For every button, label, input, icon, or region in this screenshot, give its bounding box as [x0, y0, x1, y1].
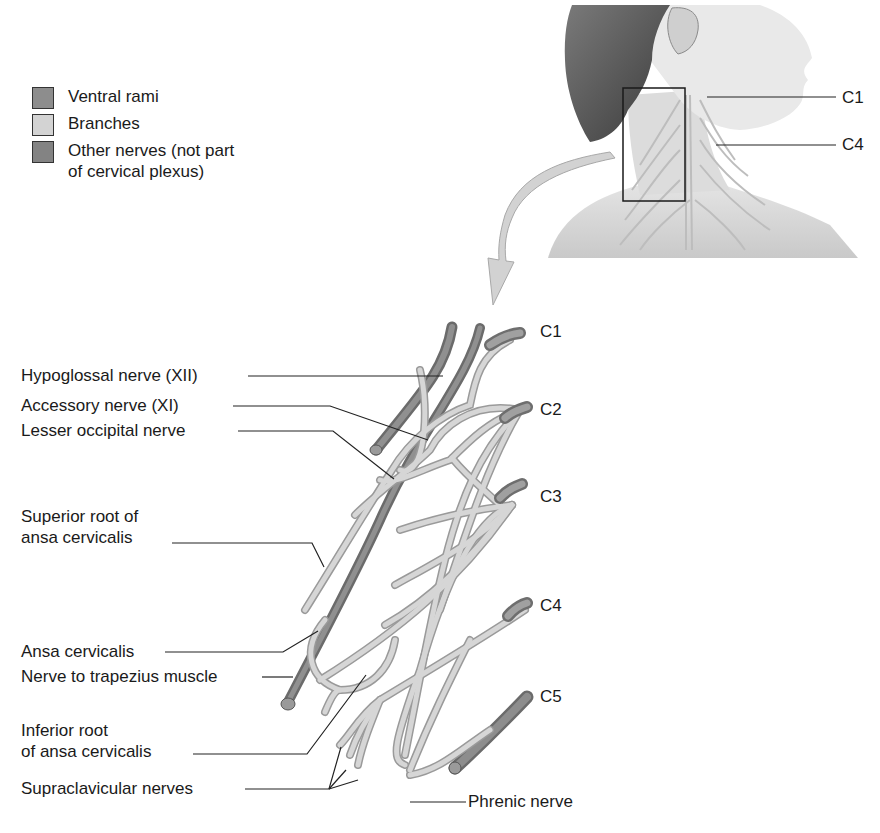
- label-supraclavicular-nerves: Supraclavicular nerves: [21, 778, 193, 799]
- label-superior-root-ansa-cervicalis: Superior root of ansa cervicalis: [21, 506, 138, 548]
- diagram-canvas: [0, 0, 880, 833]
- label-inferior-root-ansa-cervicalis: Inferior root of ansa cervicalis: [21, 720, 151, 762]
- label-ansa-cervicalis: Ansa cervicalis: [21, 641, 134, 662]
- label-c5: C5: [540, 687, 562, 707]
- label-lesser-occipital-nerve: Lesser occipital nerve: [21, 420, 185, 441]
- label-c1: C1: [540, 322, 562, 342]
- label-hypoglossal-nerve: Hypoglossal nerve (XII): [21, 365, 198, 386]
- label-c4: C4: [540, 596, 562, 616]
- label-accessory-nerve: Accessory nerve (XI): [21, 395, 179, 416]
- label-nerve-to-trapezius: Nerve to trapezius muscle: [21, 666, 218, 687]
- label-phrenic-nerve: Phrenic nerve: [468, 791, 573, 812]
- label-c3: C3: [540, 487, 562, 507]
- inset-label-c4: C4: [842, 135, 864, 155]
- inset-illustration: [548, 5, 858, 258]
- label-c2: C2: [540, 400, 562, 420]
- cervical-plexus-diagram: [165, 327, 527, 802]
- inset-label-c1: C1: [842, 88, 864, 108]
